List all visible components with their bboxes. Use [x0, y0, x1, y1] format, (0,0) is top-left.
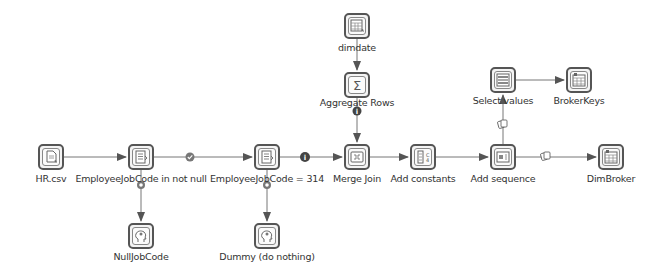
step-add-sequence[interactable]	[490, 144, 516, 170]
step-dimbroker[interactable]	[598, 144, 624, 170]
step-aggregate-rows[interactable]: Σ	[344, 72, 370, 98]
step-hr-csv[interactable]	[38, 144, 64, 170]
sigma-icon: Σ	[346, 74, 368, 96]
true-check-icon	[186, 153, 195, 162]
table-output-icon	[600, 146, 622, 168]
csv-input-icon	[40, 146, 62, 168]
step-label: Select values	[473, 95, 534, 106]
step-label: Merge Join	[333, 173, 381, 184]
step-add-constants[interactable]: C 4	[410, 144, 436, 170]
add-sequence-icon	[492, 146, 514, 168]
filter-rows-icon	[256, 146, 278, 168]
step-dummy-do-nothing[interactable]	[254, 223, 280, 249]
svg-text:Σ: Σ	[353, 78, 361, 93]
step-filter-not-null[interactable]	[128, 144, 154, 170]
step-select-values[interactable]	[490, 67, 516, 93]
step-filter-eq-314[interactable]	[254, 144, 280, 170]
step-label: DimBroker	[587, 173, 635, 184]
copy-icon	[497, 120, 507, 129]
step-label: dimdate	[338, 42, 376, 53]
select-values-icon	[492, 69, 514, 91]
hop-connectors: i i	[0, 0, 666, 274]
step-label: Aggregate Rows	[320, 97, 394, 108]
svg-text:i: i	[304, 154, 306, 162]
svg-text:4: 4	[426, 157, 429, 163]
merge-join-icon	[346, 146, 368, 168]
step-label: HR.csv	[35, 173, 66, 184]
step-label: EmployeeJobCode in not null	[75, 173, 206, 184]
dummy-icon	[130, 225, 152, 247]
step-label: BrokerKeys	[553, 95, 604, 106]
add-constants-icon: C 4	[412, 146, 434, 168]
copy-icon	[540, 152, 550, 161]
transformation-canvas[interactable]: i i	[0, 0, 666, 274]
dummy-icon	[256, 225, 278, 247]
step-nulljobcode[interactable]	[128, 223, 154, 249]
step-brokerkeys[interactable]	[566, 67, 592, 93]
step-label: EmployeeJobCode = 314	[210, 173, 324, 184]
table-output-icon	[568, 69, 590, 91]
table-input-icon	[346, 15, 368, 37]
step-label: Add constants	[390, 173, 455, 184]
step-label: Dummy (do nothing)	[219, 251, 314, 262]
step-label: NullJobCode	[113, 251, 168, 262]
step-merge-join[interactable]	[344, 144, 370, 170]
step-dimdate[interactable]	[344, 13, 370, 39]
svg-text:i: i	[356, 108, 358, 116]
step-label: Add sequence	[471, 173, 536, 184]
filter-rows-icon	[130, 146, 152, 168]
